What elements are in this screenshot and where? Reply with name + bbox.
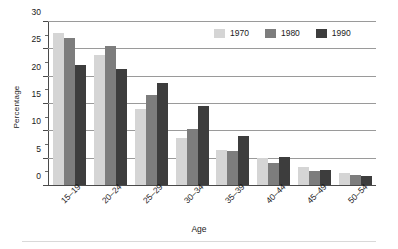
- plot-area: 051015202530: [48, 22, 376, 186]
- y-tick-major: [43, 185, 48, 186]
- x-tick-cell: 25–29: [131, 188, 172, 228]
- bar-1990: [116, 69, 127, 185]
- y-tick-minor: [45, 62, 48, 63]
- bar-1970: [298, 167, 309, 185]
- y-tick-major: [43, 130, 48, 131]
- y-tick-label: 30: [32, 7, 41, 17]
- bar-1980: [187, 129, 198, 186]
- y-tick-major: [43, 76, 48, 77]
- y-tick-minor: [45, 89, 48, 90]
- bar-1980: [227, 151, 238, 185]
- y-tick-major: [43, 158, 48, 159]
- legend-label-1990: 1990: [332, 28, 351, 38]
- legend-label-1970: 1970: [230, 28, 249, 38]
- x-tick-cell: 40–44: [254, 188, 295, 228]
- bar-1970: [176, 138, 187, 185]
- x-tick-cell: 15–19: [49, 188, 90, 228]
- bar-group: [253, 22, 294, 185]
- x-tick-cell: 20–24: [90, 188, 131, 228]
- bar-1990: [157, 83, 168, 185]
- y-tick-major: [43, 103, 48, 104]
- bar-1990: [238, 136, 249, 185]
- x-tick-labels: 15–1920–2425–2930–3435–3940–4445–4950–54: [49, 188, 377, 228]
- bar-group: [213, 22, 254, 185]
- legend-label-1980: 1980: [281, 28, 300, 38]
- legend-entry-1970: 1970: [214, 28, 249, 38]
- y-tick-label: 5: [36, 144, 41, 154]
- bar-1970: [216, 150, 227, 185]
- bar-1990: [75, 65, 86, 185]
- x-tick-cell: 50–54: [336, 188, 377, 228]
- x-axis-title: Age: [0, 224, 398, 234]
- bar-1980: [64, 38, 75, 185]
- bar-group: [131, 22, 172, 185]
- bar-chart-figure: Percentage 051015202530 15–1920–2425–293…: [0, 0, 398, 249]
- y-tick-label: 25: [32, 34, 41, 44]
- bar-1970: [135, 109, 146, 185]
- bar-1990: [198, 106, 209, 185]
- y-tick-major: [43, 48, 48, 49]
- y-tick-label: 15: [32, 89, 41, 99]
- bar-1970: [53, 33, 64, 185]
- legend-swatch-1980: [265, 29, 276, 38]
- y-tick-minor: [45, 171, 48, 172]
- x-tick-cell: 30–34: [172, 188, 213, 228]
- bar-group: [294, 22, 335, 185]
- legend-entry-1980: 1980: [265, 28, 300, 38]
- bar-1970: [257, 158, 268, 185]
- chart-legend: 197019801990: [214, 28, 351, 38]
- bar-group: [90, 22, 131, 185]
- bar-group: [49, 22, 90, 185]
- y-tick-minor: [45, 117, 48, 118]
- y-axis-title: Percentage: [12, 62, 21, 152]
- y-tick-minor: [45, 35, 48, 36]
- x-tick-cell: 35–39: [213, 188, 254, 228]
- y-tick-minor: [45, 144, 48, 145]
- bar-1970: [339, 173, 350, 185]
- bottom-divider: [22, 241, 376, 242]
- bar-groups: [49, 22, 376, 185]
- legend-entry-1990: 1990: [316, 28, 351, 38]
- y-tick-label: 10: [32, 116, 41, 126]
- bar-1970: [94, 55, 105, 185]
- y-tick-label: 0: [36, 171, 41, 181]
- bar-group: [335, 22, 376, 185]
- legend-swatch-1970: [214, 29, 225, 38]
- x-tick-cell: 45–49: [295, 188, 336, 228]
- y-tick-label: 20: [32, 62, 41, 72]
- bar-1980: [105, 46, 116, 185]
- bar-1980: [268, 163, 279, 185]
- y-tick-major: [43, 21, 48, 22]
- bar-1980: [146, 95, 157, 185]
- bar-group: [172, 22, 213, 185]
- legend-swatch-1990: [316, 29, 327, 38]
